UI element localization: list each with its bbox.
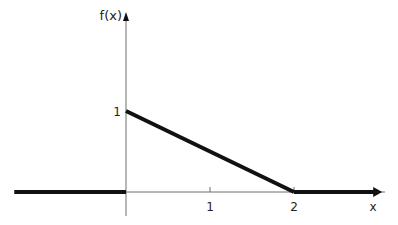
x-tick-label: 1 xyxy=(206,200,214,214)
axes xyxy=(15,12,385,216)
function-segment xyxy=(126,111,294,192)
labels: f(x) x 121 xyxy=(100,8,377,214)
function-graph xyxy=(14,111,382,197)
x-axis-label: x xyxy=(369,200,376,214)
chart: f(x) x 121 xyxy=(0,0,398,225)
y-axis-label: f(x) xyxy=(100,8,122,23)
y-tick-label: 1 xyxy=(113,105,121,119)
y-axis-arrow-icon xyxy=(123,12,129,21)
x-axis-arrow-icon xyxy=(373,187,382,197)
x-tick-label: 2 xyxy=(290,200,298,214)
